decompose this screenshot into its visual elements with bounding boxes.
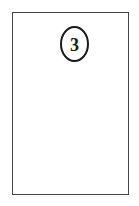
badge-number: 3 — [70, 36, 79, 54]
number-badge: 3 — [60, 26, 89, 62]
